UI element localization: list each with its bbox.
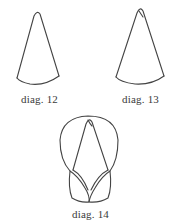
- cone-diagram-12: [17, 12, 59, 84]
- diagram-drawings: [0, 0, 177, 224]
- diagram-figure: diag. 12 diag. 13 diag. 14: [0, 0, 177, 224]
- cone-diagram-13: [116, 9, 164, 84]
- caption-diag-14: diag. 14: [72, 208, 109, 220]
- wrapped-cone-diagram-14: [60, 116, 118, 202]
- caption-diag-12: diag. 12: [21, 93, 58, 105]
- caption-diag-13: diag. 13: [122, 93, 159, 105]
